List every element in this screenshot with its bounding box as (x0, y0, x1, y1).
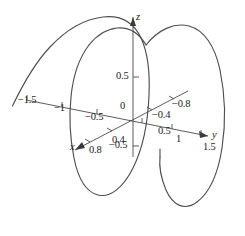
y-tick-label-0.5: 0.5 (158, 126, 171, 137)
x-tick-label-0.4: 0.4 (112, 135, 125, 146)
y-tick-label-1: 1 (176, 134, 181, 145)
x-tick-label--0.4: −0.4 (152, 110, 170, 121)
curve-outer-loop-return (89, 28, 146, 45)
y-tick-label--0.5: −0.5 (85, 112, 103, 123)
z-axis-label: z (136, 12, 140, 23)
origin-label: 0 (120, 101, 125, 112)
x-tick-0.4 (107, 128, 112, 131)
curve-outer-loop (13, 17, 150, 196)
y-tick-label--1.5: −1.5 (18, 95, 36, 106)
x-tick-0.8 (85, 139, 90, 142)
y-axis-arrow-icon (199, 131, 208, 138)
y-axis-label: y (212, 130, 217, 141)
y-tick-label--1: −1 (54, 103, 65, 114)
x-axis-arrow-icon (75, 142, 85, 150)
parametric-space-curve-figure: −1.5 −1 −0.5 0.5 1 1.5 0.5 −0.5 0 0.4 0.… (0, 0, 245, 236)
x-axis-label: x (70, 142, 75, 153)
x-tick-label--0.8: −0.8 (172, 99, 190, 110)
x-tick-label-0.8: 0.8 (89, 145, 102, 156)
z-tick-label-0.5: 0.5 (116, 71, 129, 82)
plot-canvas (0, 0, 245, 236)
y-tick-label-1.5: 1.5 (203, 142, 216, 153)
